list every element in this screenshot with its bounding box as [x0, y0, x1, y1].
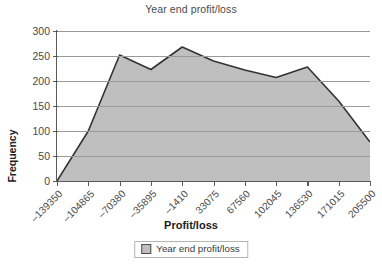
y-axis-title: Frequency [6, 101, 18, 211]
x-axis-tick [120, 181, 121, 186]
x-axis-tick [245, 181, 246, 186]
gridline [57, 81, 370, 82]
x-axis-tick-label: 171015 [315, 188, 347, 220]
gridline [57, 131, 370, 132]
x-axis-tick-label: 205500 [346, 188, 378, 220]
y-axis-tick [53, 106, 58, 107]
x-axis-tick-label: 67560 [225, 188, 253, 216]
legend-entry-label: Year end profit/loss [156, 244, 240, 254]
legend-swatch-icon [141, 244, 151, 254]
chart-container: Year end profit/loss Frequency 050100150… [0, 0, 382, 267]
y-axis-tick-label: 200 [32, 75, 50, 87]
y-axis-tick [53, 31, 58, 32]
x-axis-tick-label: –35895 [127, 188, 159, 220]
y-axis-tick-label: 100 [32, 125, 50, 137]
chart-legend: Year end profit/loss [134, 241, 248, 258]
x-axis-tick-label: –1410 [162, 188, 190, 216]
y-axis-tick-label: 0 [44, 175, 50, 187]
x-axis-tick-label: 136530 [283, 188, 315, 220]
x-axis-tick [276, 181, 277, 186]
x-axis-tick [339, 181, 340, 186]
x-axis-tick [307, 181, 308, 186]
x-axis-tick [370, 181, 371, 186]
x-axis-tick [57, 181, 58, 186]
x-axis-tick-label: 102045 [252, 188, 284, 220]
x-axis-tick-label: –70380 [96, 188, 128, 220]
x-axis-tick [182, 181, 183, 186]
x-axis-tick [214, 181, 215, 186]
gridline [57, 31, 370, 32]
y-axis-tick [53, 56, 58, 57]
y-axis-tick [53, 81, 58, 82]
y-axis-tick [53, 131, 58, 132]
y-axis-tick-label: 50 [38, 150, 50, 162]
gridline [57, 156, 370, 157]
y-axis-tick-label: 150 [32, 100, 50, 112]
x-axis-tick [151, 181, 152, 186]
y-axis-tick-label: 300 [32, 25, 50, 37]
y-axis-tick-label: 250 [32, 50, 50, 62]
y-axis-tick [53, 156, 58, 157]
x-axis-tick-label: 33075 [193, 188, 221, 216]
x-axis-title: Profit/loss [0, 219, 382, 231]
chart-title: Year end profit/loss [0, 3, 382, 15]
x-axis-tick [88, 181, 89, 186]
gridline [57, 106, 370, 107]
gridline [57, 56, 370, 57]
